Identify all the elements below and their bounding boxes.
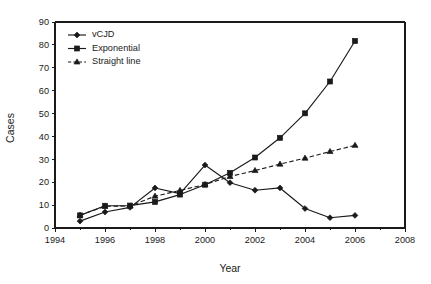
y-tick-label: 40	[39, 132, 49, 142]
y-tick-label: 80	[39, 40, 49, 50]
data-point-marker	[352, 142, 358, 147]
x-tick-label: 2004	[295, 235, 315, 245]
data-point-marker	[327, 215, 333, 221]
y-tick-label: 50	[39, 109, 49, 119]
legend-item-exponential[interactable]: Exponential	[68, 43, 140, 53]
y-tick-label: 20	[39, 177, 49, 187]
series-path	[80, 41, 355, 215]
x-tick-label: 2008	[395, 235, 415, 245]
data-point-marker	[352, 213, 358, 219]
legend-item-vcjd[interactable]: vCJD	[68, 29, 115, 39]
data-point-marker	[77, 218, 83, 224]
y-tick-label: 60	[39, 86, 49, 96]
x-tick-label: 1994	[45, 235, 65, 245]
x-tick-label: 1996	[95, 235, 115, 245]
y-tick-label: 0	[44, 223, 49, 233]
y-tick-label: 90	[39, 17, 49, 27]
data-point-marker	[303, 111, 308, 116]
data-point-marker	[278, 135, 283, 140]
legend-item-straight-line[interactable]: Straight line	[68, 56, 141, 66]
cases-by-year-line-chart: 0102030405060708090199419961998200020022…	[0, 0, 431, 284]
chart-figure: 0102030405060708090199419961998200020022…	[0, 0, 431, 284]
y-tick-label: 30	[39, 155, 49, 165]
data-point-marker	[102, 209, 108, 215]
y-tick-label: 10	[39, 200, 49, 210]
data-point-marker	[153, 199, 158, 204]
x-tick-label: 2002	[245, 235, 265, 245]
legend-label: Straight line	[92, 56, 141, 66]
x-axis-title: Year	[219, 262, 241, 274]
legend-label: Exponential	[92, 43, 140, 53]
x-tick-label: 2000	[195, 235, 215, 245]
x-tick-label: 1998	[145, 235, 165, 245]
data-point-marker	[277, 161, 283, 166]
y-axis-title: Cases	[4, 113, 16, 143]
x-tick-label: 2006	[345, 235, 365, 245]
data-point-marker	[253, 155, 258, 160]
data-point-marker	[178, 192, 183, 197]
series-vcjd	[77, 162, 358, 224]
data-point-marker	[74, 32, 80, 38]
y-tick-label: 70	[39, 63, 49, 73]
chart-legend: vCJDExponentialStraight line	[68, 29, 141, 66]
legend-label: vCJD	[92, 29, 115, 39]
series-path	[80, 165, 355, 221]
data-point-marker	[353, 38, 358, 43]
data-point-marker	[328, 79, 333, 84]
series-path	[80, 145, 355, 215]
data-point-marker	[75, 46, 80, 51]
data-point-marker	[252, 187, 258, 193]
